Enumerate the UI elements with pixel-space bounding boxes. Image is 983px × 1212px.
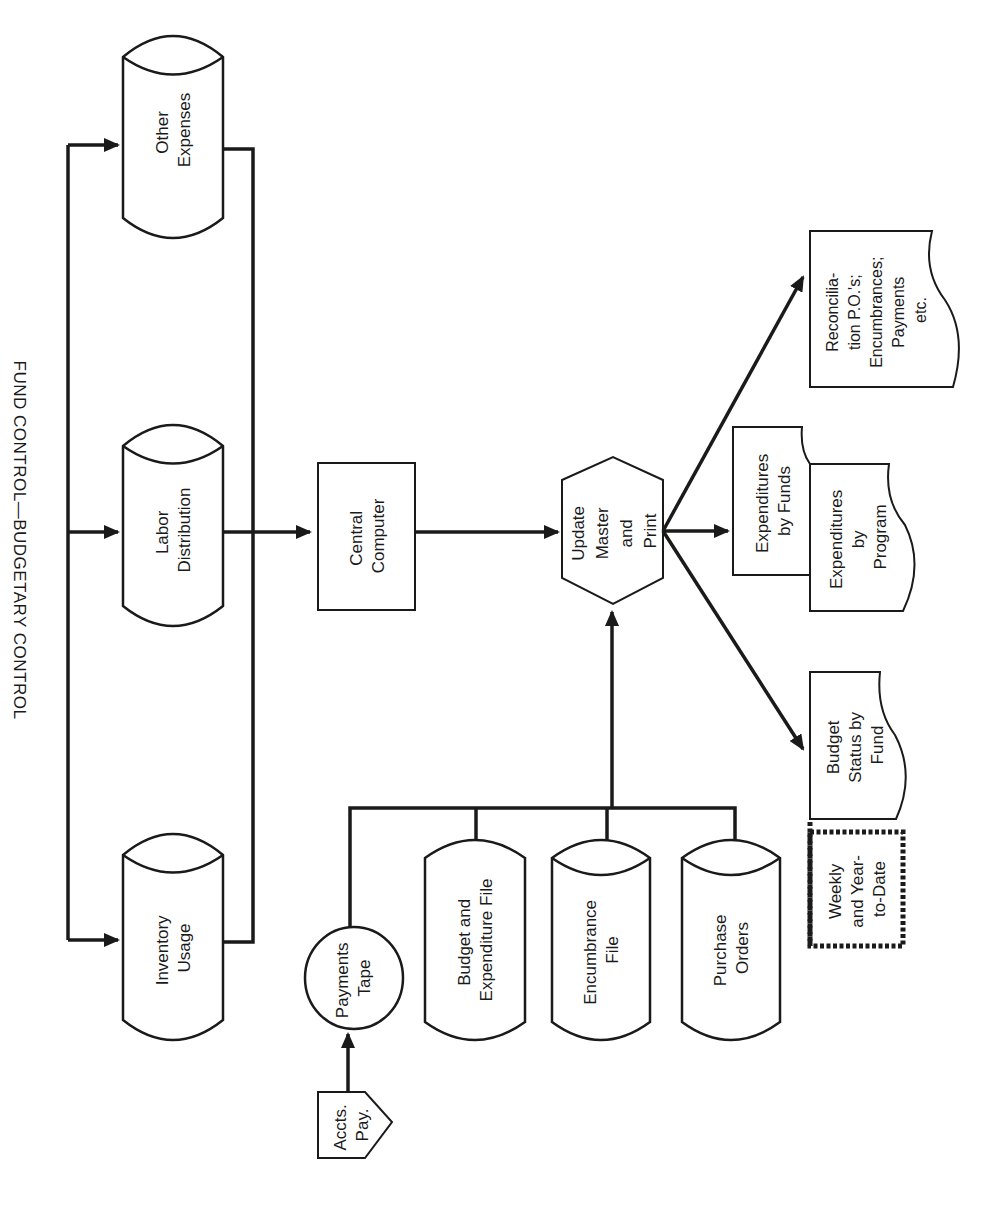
label-line: Encumbrance	[581, 900, 600, 1005]
update-master-hexagon[interactable]: Update Master and Print	[562, 457, 663, 604]
label-line: and Year-	[848, 855, 867, 928]
label-line: Purchase	[711, 914, 730, 986]
label-line: Weekly	[826, 863, 845, 919]
cylinder-inventory-usage[interactable]: Inventory Usage	[123, 834, 223, 1040]
label-line: Computer	[369, 498, 388, 573]
cylinder-other-expenses[interactable]: Other Expenses	[123, 36, 223, 238]
document-reconciliation[interactable]: Reconcilia- tion P.O.'s; Encumbrances; P…	[810, 231, 959, 387]
label-line: Status by	[846, 711, 865, 782]
label-line: Fund	[868, 726, 887, 765]
label-line: Accts.	[331, 1104, 350, 1150]
label-line: Update	[569, 506, 588, 561]
label-line: Expenditures	[827, 490, 846, 589]
central-computer-box[interactable]: Central Computer	[318, 463, 415, 610]
diagram-title: FUND CONTROL—BUDGETARY CONTROL	[10, 361, 29, 720]
label-line: Labor	[153, 510, 172, 554]
label-line: to-Date	[870, 861, 889, 917]
label-line: etc.	[912, 297, 929, 323]
annotation-weekly-year-to-date: Weekly and Year- to-Date	[810, 822, 903, 946]
label-line: Encumbrances;	[868, 257, 885, 368]
label-line: by	[849, 530, 868, 548]
label-line: Program	[871, 504, 890, 569]
document-expenditures-by-program[interactable]: Expenditures by Program	[810, 464, 915, 611]
cylinder-encumbrance-file[interactable]: Encumbrance File	[552, 840, 650, 1040]
label-line: Inventory	[153, 915, 172, 985]
budget-expenditure-file[interactable]: Budget and Expenditure File	[425, 840, 525, 1040]
label-line: Budget and	[455, 899, 474, 986]
document-expenditures-by-funds[interactable]: Expenditures by Funds	[733, 427, 810, 575]
label-line: Budget	[824, 720, 843, 774]
label-line: File	[603, 936, 622, 963]
label-line: by Funds	[775, 466, 794, 536]
label-line: Payments	[333, 943, 352, 1019]
label-line: Distribution	[175, 487, 194, 572]
payments-tape-circle[interactable]: Payments Tape	[305, 927, 403, 1029]
label-line: Reconcilia-	[824, 273, 841, 352]
label-line: Orders	[733, 922, 752, 974]
label-line: Payments	[890, 277, 907, 348]
label-line: Other	[153, 111, 172, 154]
document-budget-status-by-fund[interactable]: Budget Status by Fund	[810, 672, 906, 819]
label-line: Print	[641, 513, 660, 548]
label-line: Expenses	[175, 93, 194, 168]
svg-text:Weekly and Year- t: Weekly and Year- to-Date	[826, 850, 889, 928]
flowchart: FUND CONTROL—BUDGETARY CONTROL Other Exp…	[0, 0, 983, 1212]
label-line: Tape	[355, 960, 374, 997]
label-line: tion P.O.'s;	[846, 274, 863, 350]
label-line: and	[617, 519, 636, 547]
accts-pay-offpage-connector[interactable]: Accts. Pay.	[318, 1092, 392, 1158]
label-line: Usage	[175, 923, 194, 972]
label-line: Expenditures	[753, 454, 772, 553]
label-line: Master	[593, 507, 612, 559]
cylinder-labor-distribution[interactable]: Labor Distribution	[123, 425, 223, 626]
file-input-bus	[350, 612, 735, 927]
label-line: Pay.	[353, 1109, 372, 1142]
label-line: Central	[347, 511, 366, 566]
label-line: Expenditure File	[477, 879, 496, 1002]
cylinder-purchase-orders[interactable]: Purchase Orders	[682, 840, 780, 1040]
